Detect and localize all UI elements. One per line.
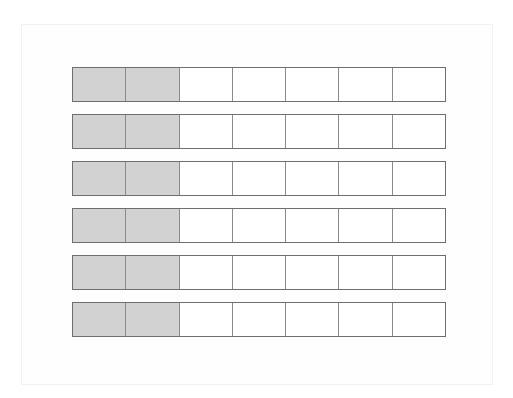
fraction-bar-1 <box>72 67 446 102</box>
fraction-bar-2 <box>72 114 446 149</box>
bar-1-cell-3 <box>180 68 233 101</box>
fraction-bar-3 <box>72 161 446 196</box>
bar-4-cell-5 <box>286 209 339 242</box>
bar-6-cell-6 <box>339 303 392 336</box>
bar-3-cell-5 <box>286 162 339 195</box>
bar-2-cell-2 <box>126 115 179 148</box>
bar-5-cell-2 <box>126 256 179 289</box>
bar-5-cell-6 <box>339 256 392 289</box>
bar-3-cell-7 <box>393 162 445 195</box>
bar-4-cell-6 <box>339 209 392 242</box>
fraction-bars-group <box>72 67 446 337</box>
bar-1-cell-4 <box>233 68 286 101</box>
bar-5-cell-1 <box>73 256 126 289</box>
bar-5-cell-4 <box>233 256 286 289</box>
bar-1-cell-7 <box>393 68 445 101</box>
bar-5-cell-5 <box>286 256 339 289</box>
bar-6-cell-1 <box>73 303 126 336</box>
bar-2-cell-3 <box>180 115 233 148</box>
bar-6-cell-2 <box>126 303 179 336</box>
bar-3-cell-3 <box>180 162 233 195</box>
bar-2-cell-4 <box>233 115 286 148</box>
figure-canvas <box>0 0 513 398</box>
bar-5-cell-3 <box>180 256 233 289</box>
fraction-bar-5 <box>72 255 446 290</box>
bar-6-cell-5 <box>286 303 339 336</box>
bar-1-cell-5 <box>286 68 339 101</box>
bar-1-cell-6 <box>339 68 392 101</box>
bar-4-cell-7 <box>393 209 445 242</box>
bar-2-cell-5 <box>286 115 339 148</box>
bar-6-cell-4 <box>233 303 286 336</box>
fraction-bar-6 <box>72 302 446 337</box>
bar-4-cell-2 <box>126 209 179 242</box>
bar-2-cell-1 <box>73 115 126 148</box>
bar-2-cell-7 <box>393 115 445 148</box>
bar-1-cell-1 <box>73 68 126 101</box>
bar-6-cell-3 <box>180 303 233 336</box>
bar-4-cell-3 <box>180 209 233 242</box>
bar-3-cell-4 <box>233 162 286 195</box>
bar-6-cell-7 <box>393 303 445 336</box>
bar-3-cell-1 <box>73 162 126 195</box>
bar-1-cell-2 <box>126 68 179 101</box>
bar-4-cell-4 <box>233 209 286 242</box>
bar-4-cell-1 <box>73 209 126 242</box>
bar-3-cell-6 <box>339 162 392 195</box>
fraction-bar-4 <box>72 208 446 243</box>
bar-3-cell-2 <box>126 162 179 195</box>
bar-5-cell-7 <box>393 256 445 289</box>
bar-2-cell-6 <box>339 115 392 148</box>
